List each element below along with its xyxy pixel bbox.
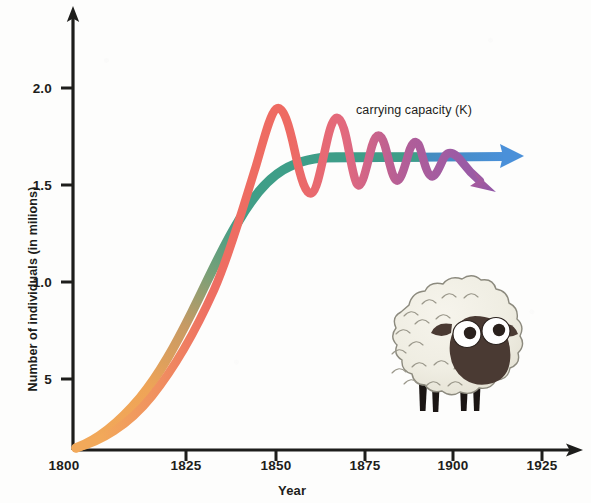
y-tick-label-2-0: 2.0 (14, 81, 52, 96)
sheep-illustration (392, 276, 523, 412)
chart-page: 2.0 1.5 1.0 5 1800 1825 1850 1875 1900 1… (0, 0, 591, 503)
x-tick-label-1900: 1900 (438, 458, 469, 473)
y-axis-title: Number of individuals (in milions) (26, 174, 40, 404)
x-tick-label-1925: 1925 (527, 458, 558, 473)
x-tick-label-1850: 1850 (261, 458, 292, 473)
sheep-leg-rear-left (419, 384, 427, 411)
carrying-capacity-label: carrying capacity (K) (356, 103, 472, 117)
x-axis-title: Year (278, 483, 306, 498)
x-tick-label-1800: 1800 (49, 458, 80, 473)
sheep-pupil-left (464, 327, 476, 339)
population-growth-chart (0, 0, 591, 503)
x-tick-label-1825: 1825 (171, 458, 202, 473)
carrying-capacity-arrowhead (500, 144, 524, 168)
x-tick-label-1875: 1875 (350, 458, 381, 473)
sheep-pupil-right (493, 324, 505, 336)
